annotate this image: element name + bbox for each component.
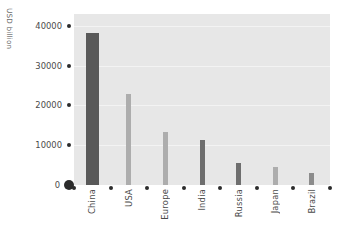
plot-area [74, 14, 330, 185]
y-axis-tick-label: 20000 [35, 100, 62, 110]
y-axis-tick: 20000 [0, 100, 74, 110]
y-axis-tick-dot [67, 24, 71, 28]
y-axis-tick: 10000 [0, 140, 74, 150]
x-axis-tick-label: China [87, 189, 97, 214]
bar [163, 132, 168, 185]
bar-chart-figure: USD billion 010000200003000040000 ChinaU… [0, 0, 346, 239]
bar [309, 173, 314, 185]
x-axis-tick-dot [72, 186, 76, 190]
x-axis-tick-label: Japan [270, 189, 280, 213]
y-axis-tick-label: 10000 [35, 140, 62, 150]
x-axis-tick-dot [109, 186, 113, 190]
gridline [74, 26, 330, 27]
x-axis-tick-dot [218, 186, 222, 190]
y-axis-tick-dot [67, 103, 71, 107]
y-axis-tick-label: 30000 [35, 61, 62, 71]
y-axis-tick: 40000 [0, 21, 74, 31]
y-axis-tick-label: 0 [55, 180, 60, 190]
x-axis-tick-dot [182, 186, 186, 190]
x-axis-tick-dot [145, 186, 149, 190]
x-axis-tick-dot [291, 186, 295, 190]
bar [86, 33, 99, 185]
y-axis-tick: 30000 [0, 61, 74, 71]
y-axis-tick-dot [67, 64, 71, 68]
gridline [74, 66, 330, 67]
x-axis-tick-label: Brazil [307, 189, 317, 214]
gridline [74, 105, 330, 106]
y-axis-tick-label: 40000 [35, 21, 62, 31]
x-axis-tick-dot [328, 186, 332, 190]
bar [200, 140, 205, 185]
bar [273, 167, 278, 185]
x-axis-tick-label: India [197, 189, 207, 211]
x-axis-tick-dot [255, 186, 259, 190]
y-axis-tick-dot [67, 143, 71, 147]
bar [126, 94, 131, 185]
bar [236, 163, 241, 185]
x-axis-tick-label: Russia [234, 189, 244, 217]
x-axis-tick-label: USA [124, 189, 134, 207]
x-axis-tick-label: Europe [160, 189, 170, 220]
y-axis-tick: 0 [0, 180, 74, 190]
